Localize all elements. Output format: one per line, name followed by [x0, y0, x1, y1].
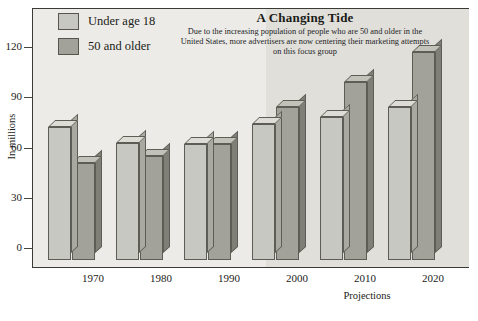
bar-side-face	[231, 131, 238, 253]
bar-under-age-18-2010	[320, 117, 343, 260]
bar-side-face	[275, 111, 282, 253]
bar-front-face	[48, 127, 71, 260]
bar-under-age-18-1990	[184, 144, 207, 260]
bar-side-face	[435, 39, 442, 253]
chart-container: A Changing Tide Due to the increasing po…	[0, 0, 478, 321]
bar-side-face	[95, 149, 102, 253]
x-axis-tick-label: 2020	[408, 272, 458, 284]
y-axis-title: In millions	[6, 102, 17, 172]
bar-front-face	[388, 107, 411, 260]
bar-front-face	[252, 124, 275, 260]
bar-under-age-18-1970	[48, 127, 71, 260]
bar-side-face	[367, 69, 374, 253]
legend-item-label: 50 and older	[88, 39, 150, 54]
y-axis-tick	[24, 148, 33, 149]
bar-under-age-18-1980	[116, 143, 139, 260]
y-axis-tick	[24, 198, 33, 199]
x-axis-tick-label: 2010	[340, 272, 390, 284]
y-axis-tick	[24, 47, 33, 48]
bar-front-face	[116, 143, 139, 260]
chart-subtitle: Due to the increasing population of peop…	[178, 27, 432, 56]
bar-side-face	[163, 143, 170, 253]
legend-item-label: Under age 18	[88, 14, 155, 29]
x-axis-tick-label: 1990	[204, 272, 254, 284]
x-axis-line	[32, 267, 469, 268]
x-axis-tick-label: 1970	[68, 272, 118, 284]
x-axis-tick-label: 2000	[272, 272, 322, 284]
bar-front-face	[184, 144, 207, 260]
y-axis-tick	[24, 248, 33, 249]
bar-side-face	[139, 129, 146, 253]
bar-side-face	[299, 94, 306, 253]
bar-side-face	[71, 114, 78, 253]
bar-side-face	[411, 94, 418, 253]
y-axis-tick-label: 120	[0, 40, 22, 52]
legend-item-under-age-18: Under age 18	[58, 13, 155, 30]
y-axis-tick-label: 60	[0, 141, 22, 153]
bar-under-age-18-2020	[388, 107, 411, 260]
legend-swatch-dark	[58, 38, 79, 55]
chart-title: A Changing Tide	[185, 10, 425, 26]
x-axis-tick-label: 1980	[136, 272, 186, 284]
bar-side-face	[343, 104, 350, 253]
legend-swatch-light	[58, 13, 79, 30]
bar-side-face	[207, 131, 214, 253]
bar-under-age-18-2000	[252, 124, 275, 260]
y-axis-tick	[24, 97, 33, 98]
y-axis-tick-label: 30	[0, 191, 22, 203]
legend-item-50-and-older: 50 and older	[58, 38, 150, 55]
y-axis-tick-label: 0	[0, 241, 22, 253]
bar-front-face	[320, 117, 343, 260]
y-axis-tick-label: 90	[0, 90, 22, 102]
x-axis-title: Projections	[327, 290, 407, 301]
